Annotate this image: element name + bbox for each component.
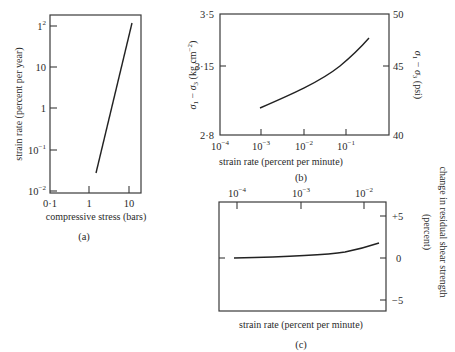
chart-c-ylabel-line1: change in residual shear strength: [438, 166, 449, 297]
chart-c-xlabel: strain rate (percent per minute): [239, 319, 363, 331]
chart-c-ytick-minus5: −5: [392, 295, 403, 306]
chart-b-ytick-left-2.8: 2·8: [200, 130, 214, 141]
chart-a-ytick-1e2: 12: [37, 19, 46, 32]
chart-b-ylabel-left: σ1 − σ3 (kg cm−2): [186, 41, 200, 110]
chart-b-xlabel: strain rate (percent per minute): [219, 156, 343, 168]
chart-a-series-line: [96, 23, 132, 173]
chart-a-xlabel: compressive stress (bars): [46, 211, 147, 223]
chart-c-ytick-plus5: +5: [392, 211, 403, 222]
chart-c-ytick-0: 0: [396, 253, 401, 264]
chart-b-xtick-1e-2: 10−2: [295, 139, 313, 152]
chart-c-ylabel-line2: (percent): [421, 214, 433, 250]
chart-a-xtick-1: 1: [86, 198, 91, 209]
chart-a-ylabel: strain rate (percent per year): [13, 47, 25, 160]
chart-b-ytick-right-50: 50: [393, 9, 404, 20]
chart-a-ytick-1e-1: 10−1: [28, 143, 46, 156]
chart-a-ytick-1e-2: 10−2: [28, 184, 46, 197]
chart-b-series-curve: [260, 38, 369, 108]
chart-b-xtick-1e-4: 10−4: [211, 139, 229, 152]
chart-a-caption: (a): [78, 231, 90, 243]
chart-b-xtick-1e-3: 10−3: [252, 139, 270, 152]
chart-a: 12 10 1 10−1 10−2 0·1 1 10 compressive s…: [13, 15, 146, 243]
chart-a-ytick-10: 10: [36, 62, 47, 73]
chart-c: 10−4 10−3 10−2 +5 0 −5 strain rate (perc…: [219, 166, 449, 351]
chart-b: 3·5 3·15 2·8 50 45 40 10−4 10−3 10−2 10−…: [186, 9, 424, 184]
chart-b-ytick-left-3.5: 3·5: [200, 9, 214, 20]
chart-c-xtick-1e-3: 10−3: [292, 186, 310, 199]
chart-c-xtick-1e-4: 10−4: [228, 186, 246, 199]
chart-b-frame: [220, 14, 389, 135]
chart-c-series-curve: [234, 243, 379, 258]
chart-a-ytick-1: 1: [41, 103, 46, 114]
figure-canvas: 12 10 1 10−1 10−2 0·1 1 10 compressive s…: [0, 0, 455, 352]
chart-a-xtick-0.1: 0·1: [43, 198, 57, 209]
chart-c-xtick-1e-2: 10−2: [355, 186, 373, 199]
chart-b-caption: (b): [295, 172, 308, 184]
chart-b-xtick-1e-1: 10−1: [337, 139, 355, 152]
chart-a-xtick-10: 10: [124, 198, 135, 209]
chart-b-ylabel-right: σ1 − σ3 (psi): [411, 51, 424, 99]
chart-b-ytick-right-45: 45: [393, 61, 404, 72]
chart-b-ytick-right-40: 40: [393, 130, 404, 141]
chart-c-frame: [219, 202, 386, 311]
chart-c-caption: (c): [295, 339, 307, 351]
